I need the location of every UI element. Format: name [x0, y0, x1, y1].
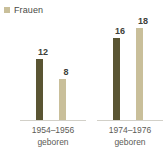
bar-value-label: 8	[51, 67, 81, 77]
bar-rect	[36, 59, 43, 120]
axis-baseline	[97, 120, 163, 121]
category-caption-2: 1974–1976 geboren	[95, 124, 165, 148]
axis-baseline	[20, 120, 86, 121]
bar-rect	[59, 79, 66, 120]
legend-swatch-square-icon	[4, 7, 10, 13]
bar-value-label: 18	[128, 16, 158, 26]
bar-group-1-bars: 12 8	[18, 14, 88, 120]
plot-area: 12 8 1954–1956 geboren 16	[0, 14, 167, 160]
category-caption-line-1: 1974–1976	[95, 124, 165, 136]
category-caption-1: 1954–1956 geboren	[18, 124, 88, 148]
bar-group-1: 12 8 1954–1956 geboren	[18, 14, 88, 160]
bar-group-2-bars: 16 18	[95, 14, 165, 120]
bar-group-2: 16 18 1974–1976 geboren	[95, 14, 165, 160]
category-caption-line-2: geboren	[95, 136, 165, 148]
category-caption-line-1: 1954–1956	[18, 124, 88, 136]
bar-slot-1b: 8	[51, 14, 81, 120]
category-caption-line-2: geboren	[18, 136, 88, 148]
bar-chart: Frauen 12 8 1954–1956 geboren	[0, 0, 167, 160]
bar-rect	[113, 38, 120, 120]
bar-slot-2b: 18	[128, 14, 158, 120]
bar-rect	[136, 28, 143, 120]
